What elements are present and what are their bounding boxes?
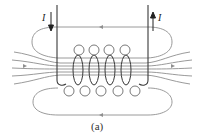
coil-cross-sections <box>64 45 140 96</box>
current-label-left: I <box>42 12 45 23</box>
figure-caption: (a) <box>91 120 103 132</box>
wires <box>57 5 148 85</box>
solenoid-diagram <box>0 0 197 137</box>
current-label-right: I <box>158 12 161 23</box>
field-lines <box>12 27 192 115</box>
coil-turns <box>73 55 131 85</box>
